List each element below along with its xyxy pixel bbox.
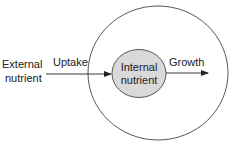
growth-label: Growth <box>169 56 204 68</box>
nutrient-diagram: External nutrient Uptake Internal nutrie… <box>0 0 229 153</box>
external-nutrient-label-line2: nutrient <box>5 72 42 84</box>
internal-nutrient-label-line2: nutrient <box>121 74 158 86</box>
external-nutrient-label-line1: External <box>2 58 42 70</box>
uptake-label: Uptake <box>53 56 88 68</box>
internal-nutrient-label-line1: Internal <box>121 61 158 73</box>
